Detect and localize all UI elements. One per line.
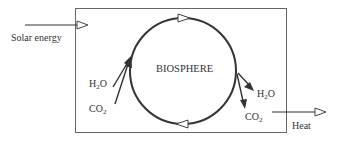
co2-output-label-subscript: 2 xyxy=(259,116,263,124)
co2-output-label-base: CO xyxy=(245,111,259,122)
solar-energy-arrow-icon xyxy=(25,21,88,29)
co2-input-label: CO2 xyxy=(89,104,106,114)
co2-output-label: CO2 xyxy=(245,112,262,122)
co2-input-label-base: CO xyxy=(89,103,103,114)
water-input-label-rest: O xyxy=(100,78,107,89)
biosphere-label: BIOSPHERE xyxy=(156,64,213,75)
co2-input-label-subscript: 2 xyxy=(103,108,107,116)
water-output-label: H2O xyxy=(257,89,275,99)
heat-arrow-icon xyxy=(272,108,326,116)
heat-label: Heat xyxy=(292,121,311,131)
solar-energy-label: Solar energy xyxy=(11,33,62,43)
cycle-arrowhead-top-icon xyxy=(178,14,190,22)
water-output-label-rest: O xyxy=(268,88,275,99)
co2-output-arrow-icon xyxy=(237,74,247,109)
water-input-label: H2O xyxy=(89,79,107,89)
cycle-arrowhead-bottom-icon xyxy=(176,120,188,128)
